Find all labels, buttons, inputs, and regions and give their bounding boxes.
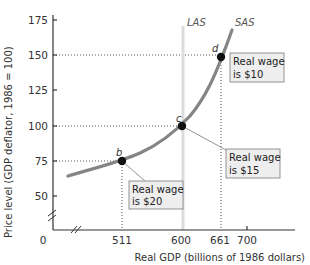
y-tick-50: 50 [35,190,48,202]
annotation-d: Real wage is $10 [230,53,285,82]
x-tick-661: 661 [210,234,230,246]
point-d-label: d [212,43,219,54]
point-b-label: b [116,147,122,158]
annotation-c: Real wage is $15 [226,149,281,178]
x-tick-511: 511 [112,234,132,246]
svg-text:is $15: is $15 [229,165,259,176]
y-tick-175: 175 [28,14,48,26]
x-axis-title: Real GDP (billions of 1986 dollars) [135,252,306,263]
point-d [217,53,225,61]
svg-text:Real wage: Real wage [132,184,184,195]
svg-text:is $10: is $10 [233,69,263,80]
y-tick-100: 100 [28,120,48,132]
svg-text:Real wage: Real wage [233,56,285,67]
sas-label: SAS [235,17,255,28]
svg-text:is $20: is $20 [132,196,162,207]
sas-curve [68,30,232,176]
y-tick-75: 75 [35,155,48,167]
x-tick-origin: 0 [40,234,47,246]
y-tick-150: 150 [28,49,48,61]
point-c-label: c [176,113,182,124]
point-b [118,157,126,165]
x-tick-700: 700 [237,234,257,246]
chart: Price level (GDP deflator, 1986 = 100) L… [0,0,310,265]
x-tick-600: 600 [171,234,191,246]
las-label: LAS [187,17,206,28]
annotation-b: Real wage is $20 [129,181,184,209]
svg-text:Real wage: Real wage [229,152,281,163]
y-tick-125: 125 [28,84,48,96]
y-axis-title: Price level (GDP deflator, 1986 = 100) [3,46,14,238]
